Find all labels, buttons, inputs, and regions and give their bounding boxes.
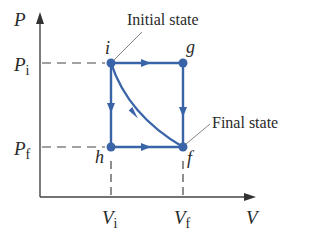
tick-p-initial-main: P [13, 54, 26, 75]
point-label-h: h [95, 147, 104, 167]
tick-p-final-main: P [13, 138, 26, 159]
state-points [107, 59, 188, 152]
arrow-right-icon [141, 59, 151, 67]
point-label-i: i [105, 38, 110, 58]
arrow-down-icon [107, 103, 115, 113]
point-label-f: f [187, 148, 195, 168]
tick-p-final: Pf [13, 138, 31, 162]
x-axis-arrow-icon [244, 193, 256, 201]
tick-v-final-sub: f [186, 216, 191, 231]
initial-leader-line [114, 32, 142, 60]
y-axis-arrow-icon [36, 12, 44, 24]
point-i [107, 59, 116, 68]
tick-p-initial: Pi [13, 54, 30, 78]
guide-lines [42, 63, 183, 197]
initial-state-label: Initial state [127, 11, 199, 28]
final-state-label: Final state [212, 114, 278, 131]
point-h [107, 143, 116, 152]
point-g [179, 59, 188, 68]
tick-p-final-sub: f [26, 147, 31, 162]
tick-v-initial: Vi [102, 207, 118, 231]
pv-diagram: P V Pi Pf Vi Vf i g h f Initial state Fi… [0, 0, 323, 231]
axes [36, 12, 256, 201]
process-paths [111, 63, 183, 147]
tick-v-final: Vf [174, 207, 191, 231]
tick-p-initial-sub: i [26, 63, 30, 78]
arrow-right-icon [141, 143, 151, 151]
direction-arrows [107, 59, 187, 151]
y-axis-label: P [13, 9, 26, 30]
point-label-g: g [186, 37, 195, 57]
path-i-f-curve [111, 63, 183, 147]
final-leader-line [186, 124, 210, 144]
tick-v-initial-sub: i [114, 216, 118, 231]
x-axis-label: V [246, 207, 260, 228]
arrow-down-icon [179, 107, 187, 117]
